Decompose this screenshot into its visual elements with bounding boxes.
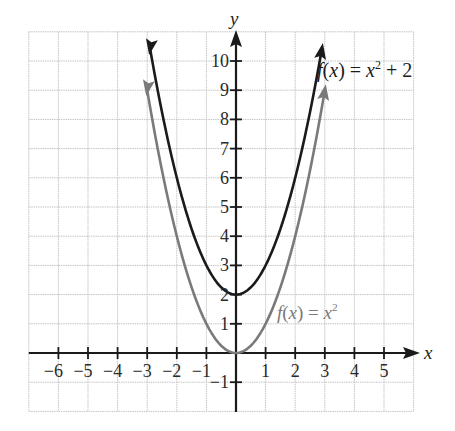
x-tick-label: −4 [103,361,122,381]
x-tick-label: 2 [291,361,300,381]
y-tick-label: −1 [210,372,229,392]
parabola-chart: −6−5−4−3−2−112345−112345678910 x y f(x) … [0,0,455,431]
curve-label-x-squared: f(x) = x2 [277,301,338,324]
y-tick-label: 1 [220,314,229,334]
curve-label-x-squared-plus-2: f(x) = x2 + 2 [317,58,412,82]
y-tick-label: 10 [211,51,229,71]
x-tick-label: 4 [350,361,359,381]
x-tick-label: −5 [73,361,92,381]
x-tick-label: −2 [162,361,181,381]
x-tick-label: 3 [320,361,329,381]
curve-labels: f(x) = x2 + 2f(x) = x2 [277,58,412,324]
y-tick-label: 4 [220,226,229,246]
x-tick-label: −6 [44,361,63,381]
y-tick-label: 6 [220,168,229,188]
y-tick-label: 2 [220,285,229,305]
x-axis-label: x [423,342,433,363]
y-tick-label: 9 [220,80,229,100]
y-tick-label: 5 [220,197,229,217]
x-tick-label: 5 [380,361,389,381]
y-axis-label: y [228,8,239,29]
x-tick-label: 1 [261,361,270,381]
y-tick-label: 8 [220,109,229,129]
x-tick-label: −3 [133,361,152,381]
y-tick-label: 7 [220,139,229,159]
x-tick-label: −1 [192,361,211,381]
y-tick-label: 3 [220,255,229,275]
